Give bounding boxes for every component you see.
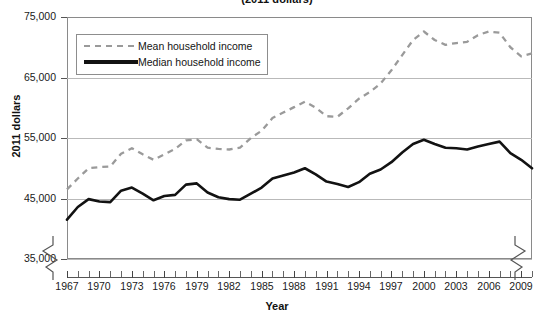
x-tick-mark [78, 271, 79, 277]
legend-swatch-solid-icon [82, 56, 138, 68]
x-tick-mark [67, 271, 68, 278]
chart-legend: Mean household income Median household i… [76, 34, 268, 75]
x-tick-mark [143, 271, 144, 277]
x-tick-mark [424, 271, 425, 278]
x-tick-mark [500, 271, 501, 277]
y-tick-mark [61, 78, 67, 79]
axis-break-left-icon [40, 236, 62, 280]
x-tick-mark [197, 271, 198, 278]
x-tick-mark [532, 271, 533, 277]
legend-item-median: Median household income [82, 54, 261, 70]
chart-title: (2011 dollars) [0, 0, 554, 5]
x-tick-mark [478, 271, 479, 277]
x-tick-mark [251, 271, 252, 277]
legend-label-median: Median household income [138, 56, 261, 68]
x-tick-mark [337, 271, 338, 277]
x-tick-mark [489, 271, 490, 278]
gridline [67, 138, 532, 139]
gridline [67, 78, 532, 79]
x-tick-mark [218, 271, 219, 277]
x-tick-mark [359, 271, 360, 278]
x-tick-mark [272, 271, 273, 277]
y-tick-label: 55,000 [8, 132, 56, 142]
x-tick-mark [99, 271, 100, 278]
y-tick-mark [61, 17, 67, 18]
x-tick-mark [89, 271, 90, 277]
axis-break-right-icon [506, 236, 528, 280]
y-tick-mark [61, 199, 67, 200]
y-tick-label: 45,000 [8, 193, 56, 203]
x-tick-mark [229, 271, 230, 278]
x-axis-title: Year [0, 300, 554, 312]
x-tick-mark [186, 271, 187, 277]
x-tick-mark [154, 271, 155, 277]
x-tick-mark [327, 271, 328, 278]
x-tick-mark [316, 271, 317, 277]
y-axis-title: 2011 dollars [10, 81, 22, 171]
legend-swatch-dashed-icon [82, 40, 138, 52]
gridline [67, 259, 532, 260]
x-tick-mark [413, 271, 414, 277]
y-tick-label: 65,000 [8, 72, 56, 82]
chart-container: (2011 dollars) 2011 dollars 35,00045,000… [0, 0, 554, 321]
gridline [67, 199, 532, 200]
y-tick-label: 75,000 [8, 11, 56, 21]
y-tick-mark [61, 138, 67, 139]
x-tick-mark [348, 271, 349, 277]
x-tick-mark [164, 271, 165, 278]
x-tick-mark [175, 271, 176, 277]
x-tick-mark [445, 271, 446, 277]
x-tick-mark [240, 271, 241, 277]
x-tick-mark [121, 271, 122, 277]
x-tick-mark [391, 271, 392, 278]
x-tick-mark [208, 271, 209, 277]
x-tick-mark [402, 271, 403, 277]
x-tick-mark [283, 271, 284, 277]
x-tick-mark [294, 271, 295, 278]
legend-item-mean: Mean household income [82, 38, 261, 54]
x-tick-mark [456, 271, 457, 278]
x-tick-mark [262, 271, 263, 278]
x-tick-mark [467, 271, 468, 277]
x-tick-mark [132, 271, 133, 278]
x-axis-line [67, 277, 532, 278]
x-tick-mark [370, 271, 371, 277]
x-tick-mark [305, 271, 306, 277]
x-tick-mark [435, 271, 436, 277]
legend-label-mean: Mean household income [138, 40, 252, 52]
x-tick-mark [381, 271, 382, 277]
x-tick-label: 2009 [499, 281, 543, 292]
x-tick-mark [110, 271, 111, 277]
